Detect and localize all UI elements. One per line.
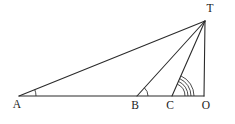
- geometry-figure: ABCOT: [0, 0, 235, 124]
- angle-arc-A-1: [35, 90, 36, 96]
- vertex-label-O: O: [202, 99, 210, 111]
- vertex-label-C: C: [166, 99, 174, 111]
- segment-ray-BT: [137, 21, 205, 96]
- geometry-canvas: ABCOT: [0, 0, 235, 124]
- angle-arc-B-1: [144, 88, 148, 96]
- vertex-label-A: A: [13, 98, 22, 110]
- vertex-label-B: B: [131, 99, 139, 111]
- segment-side-TO: [204, 21, 205, 96]
- vertex-label-T: T: [206, 2, 213, 14]
- angle-arc-C-1: [177, 84, 185, 96]
